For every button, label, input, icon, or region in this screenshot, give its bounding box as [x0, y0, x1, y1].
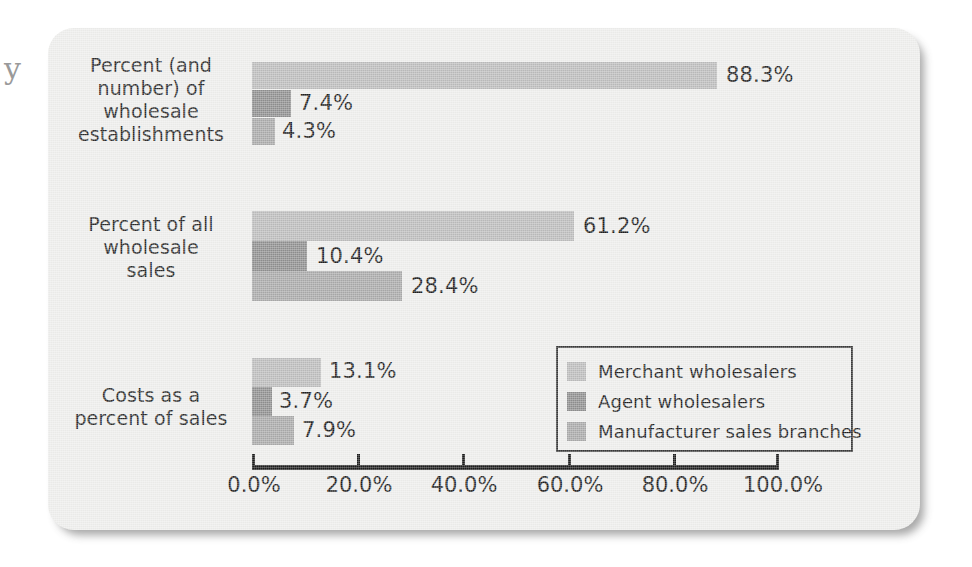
x-axis-tick	[568, 454, 571, 467]
value-label: 10.4%	[316, 244, 384, 268]
category-label-line: wholesale	[56, 100, 246, 123]
legend-item-merchant-wholesalers: Merchant wholesalers	[567, 356, 851, 386]
x-axis-tick-label: 20.0%	[326, 473, 393, 497]
category-label-line: establishments	[56, 123, 246, 146]
bar-merchant-wholesalers	[252, 62, 717, 89]
legend-label: Merchant wholesalers	[598, 361, 797, 382]
value-label: 7.4%	[299, 91, 353, 115]
x-axis-line	[252, 465, 779, 470]
bar-merchant-wholesalers	[252, 358, 321, 387]
bar-agent-wholesalers	[252, 241, 307, 271]
page-margin-glyph: y	[4, 54, 21, 84]
legend-swatch-icon	[567, 392, 586, 411]
chart-card: Percent (and number) of wholesale establ…	[48, 28, 920, 530]
bar-manufacturer-sales-branches	[252, 271, 402, 301]
value-label: 61.2%	[583, 214, 651, 238]
value-label: 7.9%	[302, 418, 356, 442]
bar-manufacturer-sales-branches	[252, 416, 294, 445]
x-axis-tick-label: 0.0%	[227, 473, 280, 497]
category-label-costs: Costs as a percent of sales	[56, 384, 246, 430]
value-label: 3.7%	[279, 389, 333, 413]
bar-agent-wholesalers	[252, 387, 272, 416]
legend-swatch-icon	[567, 422, 586, 441]
legend-label: Manufacturer sales branches	[598, 421, 862, 442]
category-label-line: Percent of all	[56, 213, 246, 236]
legend-swatch-icon	[567, 362, 586, 381]
x-axis-tick-label: 80.0%	[642, 473, 709, 497]
legend-item-manufacturer-sales-branches: Manufacturer sales branches	[567, 416, 851, 446]
category-label-line: sales	[56, 259, 246, 282]
category-label-line: percent of sales	[56, 407, 246, 430]
legend-item-agent-wholesalers: Agent wholesalers	[567, 386, 851, 416]
category-label-establishments: Percent (and number) of wholesale establ…	[56, 54, 246, 146]
x-axis-tick-label: 40.0%	[431, 473, 498, 497]
x-axis-tick	[252, 454, 255, 467]
value-label: 4.3%	[282, 119, 336, 143]
value-label: 28.4%	[411, 274, 479, 298]
x-axis-tick	[776, 454, 779, 467]
x-axis-tick	[673, 454, 676, 467]
bar-manufacturer-sales-branches	[252, 118, 275, 145]
x-axis-tick-label: 100.0%	[743, 473, 823, 497]
category-label-line: number) of	[56, 77, 246, 100]
category-label-line: Costs as a	[56, 384, 246, 407]
x-axis-tick	[462, 454, 465, 467]
category-label-line: Percent (and	[56, 54, 246, 77]
category-label-line: wholesale	[56, 236, 246, 259]
bar-merchant-wholesalers	[252, 211, 574, 241]
x-axis-tick	[357, 454, 360, 467]
value-label: 13.1%	[329, 359, 397, 383]
bar-agent-wholesalers	[252, 90, 291, 117]
category-label-wholesale-sales: Percent of all wholesale sales	[56, 213, 246, 282]
chart-legend: Merchant wholesalers Agent wholesalers M…	[556, 346, 853, 452]
value-label: 88.3%	[726, 63, 794, 87]
legend-label: Agent wholesalers	[598, 391, 765, 412]
x-axis-tick-label: 60.0%	[537, 473, 604, 497]
